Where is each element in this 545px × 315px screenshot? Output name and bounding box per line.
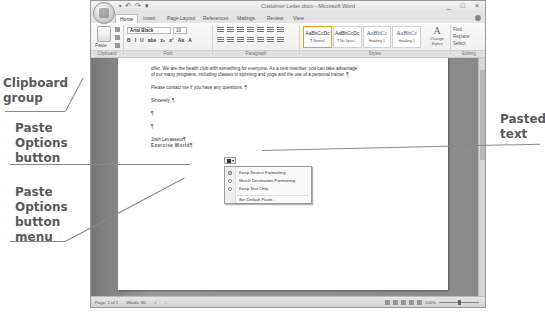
- tab-mailings[interactable]: Mailings: [233, 14, 259, 22]
- bullets-icon[interactable]: [217, 27, 224, 33]
- justify-icon[interactable]: [247, 37, 254, 43]
- close-button[interactable]: ×: [475, 2, 479, 9]
- undo-icon[interactable]: ↶: [125, 2, 131, 10]
- paste-button[interactable]: [97, 26, 111, 42]
- menu-item-set-default-paste[interactable]: Set Default Paste...: [225, 196, 311, 204]
- radio-icon: [228, 187, 232, 191]
- style-heading-2[interactable]: AaBbCc Heading 2: [392, 26, 421, 48]
- editing-group: Find Replace Select: [453, 26, 470, 47]
- show-marks-icon[interactable]: [277, 27, 284, 33]
- maximize-button[interactable]: □: [461, 2, 465, 9]
- superscript-button[interactable]: x²: [169, 37, 173, 43]
- document-page[interactable]: offer. We are the health club with somet…: [118, 58, 448, 290]
- borders-icon[interactable]: [277, 37, 284, 43]
- tab-references[interactable]: References: [199, 14, 233, 22]
- change-styles-button[interactable]: A Change Styles: [427, 25, 447, 46]
- print-layout-icon[interactable]: [385, 300, 390, 305]
- zoom-slider-thumb[interactable]: [458, 300, 461, 305]
- web-layout-icon[interactable]: [401, 300, 406, 305]
- tab-insert[interactable]: Insert: [139, 14, 160, 22]
- shading-icon[interactable]: [267, 37, 274, 43]
- outline-icon[interactable]: [409, 300, 414, 305]
- numbering-icon[interactable]: [227, 27, 234, 33]
- radio-icon: [228, 179, 232, 183]
- decrease-indent-icon[interactable]: [247, 27, 254, 33]
- line-spacing-icon[interactable]: [257, 37, 264, 43]
- callout-pasted-text: Pasted text: [500, 112, 545, 142]
- draft-icon[interactable]: [417, 300, 422, 305]
- title-bar: ▪ ↶ ↷ ▾ Customer Letter.docx - Microsoft…: [91, 1, 485, 13]
- cut-icon[interactable]: [115, 27, 120, 32]
- menu-item-keep-text-only[interactable]: Keep Text Only: [225, 185, 311, 193]
- style-name: Heading 2: [393, 39, 420, 43]
- ribbon: Paste Clipboard Arial Black 10 B I U abe…: [91, 23, 485, 58]
- status-bar: Page: 1 of 1 Words: 80 ✓ ▫ 100%: [91, 296, 485, 307]
- status-right: 100%: [385, 300, 479, 305]
- help-icon[interactable]: [475, 15, 481, 21]
- closing: Sincerely, ¶: [151, 98, 421, 104]
- font-format-buttons: B I U abe x₂ x² Aa A: [127, 37, 192, 43]
- increase-indent-icon[interactable]: [257, 27, 264, 33]
- vertical-scrollbar[interactable]: [478, 58, 485, 298]
- font-color-button[interactable]: A: [188, 37, 192, 43]
- style-sample: AaBbCcDc: [304, 30, 331, 36]
- body-line: Please contact me if you have any questi…: [151, 85, 421, 91]
- menu-item-keep-source-formatting[interactable]: Keep Source Formatting: [225, 169, 311, 177]
- style-sample: AaBbCc: [393, 30, 420, 36]
- tab-view[interactable]: View: [289, 14, 308, 22]
- align-left-icon[interactable]: [217, 37, 224, 43]
- tab-page-layout[interactable]: Page Layout: [163, 14, 199, 22]
- full-screen-reading-icon[interactable]: [393, 300, 398, 305]
- font-size-field[interactable]: 10: [173, 27, 187, 34]
- sort-icon[interactable]: [267, 27, 274, 33]
- empty-paragraph: ¶: [151, 111, 421, 117]
- page-count[interactable]: Page: 1 of 1: [95, 300, 118, 305]
- bold-button[interactable]: B: [127, 37, 131, 43]
- tab-review[interactable]: Review: [263, 14, 287, 22]
- copy-icon[interactable]: [115, 35, 120, 40]
- minimize-button[interactable]: _: [447, 2, 451, 9]
- status-left: Page: 1 of 1 Words: 80 ✓ ▫: [95, 300, 166, 305]
- zoom-level[interactable]: 100%: [425, 300, 436, 305]
- menu-item-match-destination-formatting[interactable]: Match Destination Formatting: [225, 177, 311, 185]
- replace-button[interactable]: Replace: [453, 33, 470, 40]
- window-controls: _ □ ×: [447, 2, 479, 9]
- paste-options-button[interactable]: ▾: [224, 157, 236, 164]
- callout-paste-options-menu: Paste Options button menu: [15, 185, 90, 245]
- save-icon[interactable]: ▪: [119, 2, 121, 10]
- customize-icon[interactable]: ▾: [145, 2, 149, 10]
- select-button[interactable]: Select: [453, 40, 470, 47]
- leader-line: [10, 241, 65, 242]
- format-painter-icon[interactable]: [115, 43, 120, 48]
- style-normal[interactable]: AaBbCcDc ¶ Normal: [303, 26, 332, 48]
- underline-button[interactable]: U: [140, 37, 144, 43]
- scrollbar-thumb[interactable]: [480, 70, 485, 160]
- change-styles-label: Change Styles: [427, 36, 447, 46]
- change-case-button[interactable]: Aa: [178, 37, 184, 43]
- find-button[interactable]: Find: [453, 26, 470, 33]
- redo-icon[interactable]: ↷: [135, 2, 141, 10]
- subscript-button[interactable]: x₂: [160, 37, 165, 43]
- macro-icon[interactable]: ▫: [165, 300, 167, 305]
- style-no-spacing[interactable]: AaBbCcDc ¶ No Spaci...: [333, 26, 362, 48]
- office-logo-icon: [99, 8, 109, 18]
- center-icon[interactable]: [227, 37, 234, 43]
- menu-item-label: Match Destination Formatting: [239, 178, 295, 183]
- proofing-icon[interactable]: ✓: [154, 300, 157, 305]
- document-area: offer. We are the health club with somet…: [91, 58, 485, 298]
- font-name-field[interactable]: Arial Black: [127, 27, 171, 34]
- style-heading-1[interactable]: AaBbCc Heading 1: [363, 26, 392, 48]
- clipboard-group-label[interactable]: Clipboard: [91, 50, 123, 57]
- style-name: ¶ No Spaci...: [334, 39, 361, 43]
- quick-access-toolbar: ▪ ↶ ↷ ▾: [119, 2, 149, 10]
- word-count[interactable]: Words: 80: [126, 300, 146, 305]
- italic-button[interactable]: I: [135, 37, 136, 43]
- change-styles-icon: A: [427, 25, 447, 36]
- office-button[interactable]: [93, 2, 115, 24]
- align-right-icon[interactable]: [237, 37, 244, 43]
- zoom-slider[interactable]: [439, 302, 479, 303]
- strikethrough-button[interactable]: abe: [148, 37, 157, 43]
- multilevel-icon[interactable]: [237, 27, 244, 33]
- styles-gallery: AaBbCcDc ¶ Normal AaBbCcDc ¶ No Spaci...…: [303, 26, 421, 48]
- paragraph-group-label: Paragraph: [213, 50, 299, 57]
